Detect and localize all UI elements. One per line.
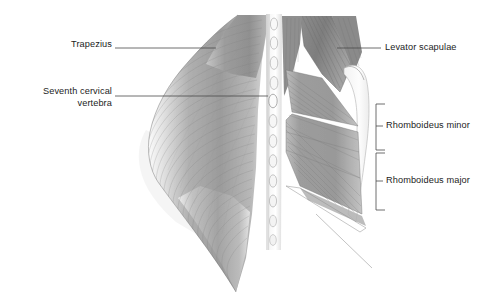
label-levator-scapulae: Levator scapulae — [385, 42, 497, 54]
label-trapezius: Trapezius — [0, 39, 112, 51]
label-rhomboideus-major: Rhomboideus major — [386, 175, 497, 187]
seventh-cervical-vertebra-marker — [269, 94, 277, 108]
figure-canvas: Trapezius Seventh cervical vertebra Leva… — [0, 0, 497, 307]
label-seventh-cervical-vertebra: Seventh cervical vertebra — [0, 86, 112, 109]
label-rhomboideus-minor: Rhomboideus minor — [386, 120, 497, 132]
vertebral-column — [266, 14, 282, 250]
